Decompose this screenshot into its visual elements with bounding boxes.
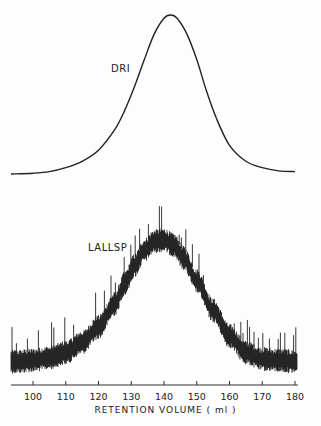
x-axis-title: RETENTION VOLUME ( ml )	[0, 405, 321, 415]
x-tick-label: 120	[89, 391, 107, 402]
x-tick-label: 110	[57, 391, 75, 402]
x-tick-label: 130	[122, 391, 140, 402]
x-tick-label: 100	[24, 391, 42, 402]
lallsp-curve-label: LALLSP	[88, 242, 127, 253]
dri-curve	[11, 15, 295, 174]
dri-curve-label: DRI	[111, 63, 130, 74]
chart-plot-area	[0, 0, 321, 426]
lallsp-curve	[11, 206, 297, 374]
x-tick-label: 170	[253, 391, 271, 402]
chromatogram-figure: DRI LALLSP 100110120130140150160170180 R…	[0, 0, 321, 426]
x-tick-label: 150	[188, 391, 206, 402]
x-tick-label: 140	[155, 391, 173, 402]
x-tick-label: 180	[286, 391, 304, 402]
x-tick-label: 160	[220, 391, 238, 402]
